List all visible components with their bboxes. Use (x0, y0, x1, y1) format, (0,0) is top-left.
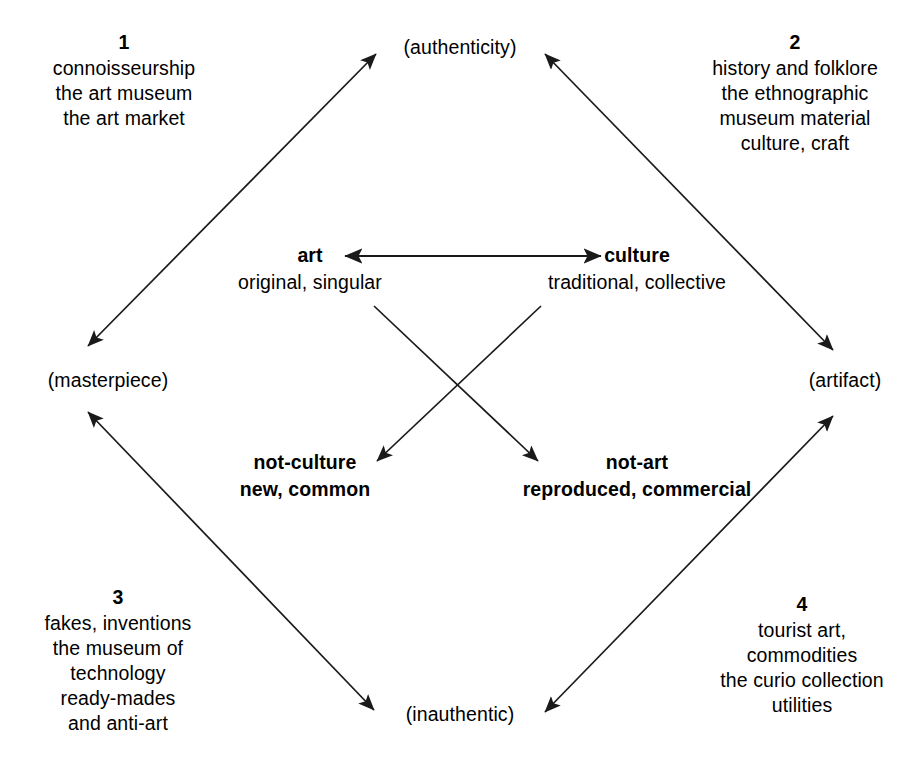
quadrant-number-3: 3 (45, 585, 192, 610)
vertex-label-artifact: (artifact) (809, 368, 882, 393)
pole-not-culture-head: not-culture (240, 450, 370, 475)
quadrant-4-line-2: commodities (720, 643, 884, 668)
pole-not-culture: not-culture new, common (240, 450, 370, 502)
semiotic-square-diagram: 1 connoisseurship the art museum the art… (0, 0, 914, 768)
quadrant-2-line-2: the ethnographic (712, 81, 878, 106)
pole-art-sub: original, singular (238, 270, 382, 295)
arrow-art-to-not-art (374, 306, 538, 461)
quadrant-3-line-2: the museum of (45, 636, 192, 661)
pole-art-head: art (238, 243, 382, 268)
quadrant-note-2: 2 history and folklore the ethnographic … (712, 30, 878, 156)
quadrant-3-line-4: ready-mades (45, 686, 192, 711)
quadrant-note-3: 3 fakes, inventions the museum of techno… (45, 585, 192, 736)
vertex-label-masterpiece: (masterpiece) (48, 368, 169, 393)
quadrant-1-line-2: the art museum (53, 81, 195, 106)
quadrant-4-line-4: utilities (720, 693, 884, 718)
pole-culture-sub: traditional, collective (548, 270, 726, 295)
quadrant-4-line-1: tourist art, (720, 618, 884, 643)
pole-art: art original, singular (238, 243, 382, 295)
quadrant-2-line-1: history and folklore (712, 56, 878, 81)
quadrant-2-line-4: culture, craft (712, 131, 878, 156)
quadrant-4-line-3: the curio collection (720, 668, 884, 693)
quadrant-note-4: 4 tourist art, commodities the curio col… (720, 592, 884, 718)
vertex-label-inauthentic: (inauthentic) (406, 702, 515, 727)
pole-not-art: not-art reproduced, commercial (523, 450, 752, 502)
quadrant-1-line-3: the art market (53, 106, 195, 131)
quadrant-3-line-1: fakes, inventions (45, 611, 192, 636)
quadrant-note-1: 1 connoisseurship the art museum the art… (53, 30, 195, 131)
quadrant-1-line-1: connoisseurship (53, 56, 195, 81)
quadrant-number-4: 4 (720, 592, 884, 617)
pole-culture-head: culture (548, 243, 726, 268)
quadrant-2-line-3: museum material (712, 106, 878, 131)
pole-not-art-head: not-art (523, 450, 752, 475)
pole-not-art-sub: reproduced, commercial (523, 477, 752, 502)
arrow-culture-to-not-culture (377, 306, 541, 461)
quadrant-number-1: 1 (53, 30, 195, 55)
quadrant-3-line-5: and anti-art (45, 711, 192, 736)
quadrant-3-line-3: technology (45, 661, 192, 686)
vertex-label-authenticity: (authenticity) (403, 35, 516, 60)
pole-not-culture-sub: new, common (240, 477, 370, 502)
pole-culture: culture traditional, collective (548, 243, 726, 295)
quadrant-number-2: 2 (712, 30, 878, 55)
